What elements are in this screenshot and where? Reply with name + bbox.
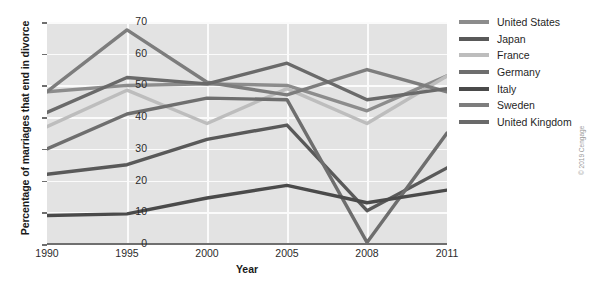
y-tick-mark (42, 54, 47, 56)
y-tick-label: 60 (107, 47, 147, 59)
legend-swatch-icon (459, 53, 489, 57)
x-tick-label: 2011 (417, 247, 477, 259)
y-tick-label: 10 (107, 205, 147, 217)
legend-swatch-icon (459, 37, 489, 41)
x-tick-label: 1995 (97, 247, 157, 259)
legend-swatch-icon (459, 70, 489, 74)
legend-swatch-icon (459, 120, 489, 124)
legend-item[interactable]: Japan (459, 31, 594, 48)
legend-label: Germany (497, 66, 540, 78)
y-tick-label: 30 (107, 142, 147, 154)
x-tick-label: 1990 (17, 247, 77, 259)
x-tick-label: 2005 (257, 247, 317, 259)
y-tick-mark (42, 85, 47, 87)
legend-label: United States (497, 16, 560, 28)
legend-label: Japan (497, 33, 526, 45)
y-tick-mark (42, 117, 47, 119)
y-axis-title: Percentage of marriages that end in divo… (19, 13, 31, 243)
y-tick-label: 70 (107, 15, 147, 27)
legend-item[interactable]: Germany (459, 64, 594, 81)
y-tick-mark (42, 212, 47, 214)
legend-item[interactable]: Italy (459, 80, 594, 97)
legend-item[interactable]: Sweden (459, 97, 594, 114)
y-tick-mark (42, 181, 47, 183)
legend-swatch-icon (459, 87, 489, 91)
legend-label: Sweden (497, 99, 535, 111)
y-tick-label: 50 (107, 78, 147, 90)
chart-figure: Percentage of marriages that end in divo… (0, 0, 598, 288)
legend-label: United Kingdom (497, 116, 572, 128)
legend-item[interactable]: France (459, 47, 594, 64)
legend-item[interactable]: United States (459, 14, 594, 31)
y-tick-mark (42, 244, 47, 246)
legend-swatch-icon (459, 20, 489, 24)
y-tick-mark (42, 149, 47, 151)
y-tick-label: 40 (107, 110, 147, 122)
y-tick-mark (42, 22, 47, 24)
chart-legend: United StatesJapanFranceGermanyItalySwed… (459, 14, 594, 130)
y-tick-label: 20 (107, 174, 147, 186)
series-line-japan (47, 125, 447, 211)
x-axis-title: Year (47, 263, 447, 275)
copyright-credit: © 2019 Cengage (578, 85, 585, 175)
legend-swatch-icon (459, 103, 489, 107)
legend-label: France (497, 49, 530, 61)
x-tick-label: 2008 (337, 247, 397, 259)
x-tick-label: 2000 (177, 247, 237, 259)
legend-label: Italy (497, 83, 516, 95)
legend-item[interactable]: United Kingdom (459, 114, 594, 131)
